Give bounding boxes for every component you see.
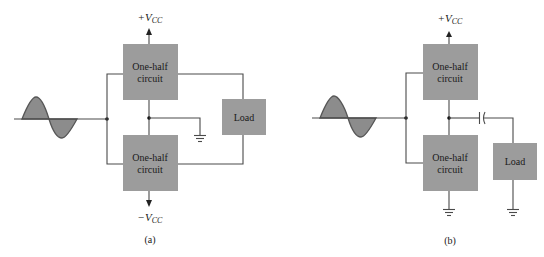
push-pull-diagram: One-half circuit One-half circuit +VCC −…: [0, 0, 544, 257]
input-bus: [406, 73, 423, 163]
bottom-block-line1: One-half: [132, 152, 168, 163]
caption-a: (a): [144, 234, 155, 246]
load-label: Load: [234, 112, 255, 123]
arrow-up-icon: [446, 31, 452, 37]
load-label: Load: [505, 156, 526, 167]
load-bottom-wire: [178, 135, 243, 164]
bottom-half-circuit-block: [423, 135, 478, 191]
ground-icon: [194, 136, 206, 142]
top-block-line2: circuit: [437, 73, 463, 84]
arrow-down-icon: [146, 200, 152, 207]
top-half-circuit-block: [423, 44, 478, 100]
vcc-positive-label: +VCC: [138, 11, 163, 25]
bottom-half-circuit-block: [123, 135, 178, 191]
top-block-line1: One-half: [432, 61, 468, 72]
capacitor-right-wire: [484, 118, 513, 143]
panel-a: One-half circuit One-half circuit +VCC −…: [14, 11, 266, 246]
load-top-wire: [178, 74, 243, 99]
bottom-block-line2: circuit: [137, 164, 163, 175]
ground-icon: [507, 210, 519, 216]
bottom-block-line1: One-half: [432, 152, 468, 163]
top-half-circuit-block: [123, 44, 178, 100]
input-bus: [107, 74, 123, 164]
sine-wave-icon: [320, 96, 376, 137]
panel-b: One-half circuit One-half circuit +VCC L…: [312, 12, 537, 247]
vcc-negative-label: −VCC: [138, 211, 163, 225]
ground-wire: [149, 118, 200, 135]
top-block-line1: One-half: [132, 61, 168, 72]
bottom-block-line2: circuit: [437, 164, 463, 175]
caption-b: (b): [444, 235, 456, 247]
top-block-line2: circuit: [137, 73, 163, 84]
arrow-up-icon: [146, 28, 152, 35]
vcc-positive-label: +VCC: [438, 12, 463, 26]
sine-wave-icon: [22, 97, 77, 138]
ground-icon: [443, 210, 455, 216]
